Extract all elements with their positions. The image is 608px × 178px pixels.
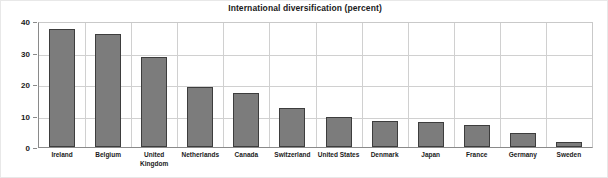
- bar-series: [39, 23, 592, 147]
- y-tick-label: 40: [21, 18, 30, 27]
- y-tick-label: 20: [21, 81, 30, 90]
- bar-slot: [500, 23, 546, 147]
- y-tick-label: 10: [21, 112, 30, 121]
- bar[interactable]: [510, 133, 536, 147]
- x-tick-label: United States: [315, 150, 361, 168]
- bar-slot: [39, 23, 85, 147]
- x-tick-label: Netherlands: [177, 150, 223, 168]
- y-tick-label: 0: [26, 144, 30, 153]
- chart-page: International diversification (percent) …: [0, 0, 608, 178]
- y-tick-mark: [33, 148, 37, 149]
- bar-slot: [269, 23, 315, 147]
- bar-slot: [454, 23, 500, 147]
- bar[interactable]: [464, 125, 490, 147]
- x-tick-label: Canada: [223, 150, 269, 168]
- x-tick-label: Denmark: [362, 150, 408, 168]
- bar[interactable]: [418, 122, 444, 147]
- x-tick-label: Germany: [500, 150, 546, 168]
- bar[interactable]: [372, 121, 398, 147]
- x-tick-label: UnitedKingdom: [131, 150, 177, 168]
- x-tick-label: Belgium: [85, 150, 131, 168]
- bar-slot: [223, 23, 269, 147]
- y-tick-mark: [33, 54, 37, 55]
- y-tick-mark: [33, 117, 37, 118]
- x-tick-label: Sweden: [546, 150, 592, 168]
- bar[interactable]: [95, 34, 121, 147]
- bar[interactable]: [326, 117, 352, 147]
- bar[interactable]: [233, 93, 259, 147]
- bar-slot: [85, 23, 131, 147]
- bar-slot: [362, 23, 408, 147]
- y-tick-label: 30: [21, 49, 30, 58]
- x-tick-label: France: [454, 150, 500, 168]
- bar-slot: [315, 23, 361, 147]
- y-tick-mark: [33, 85, 37, 86]
- bar[interactable]: [556, 142, 582, 147]
- bar[interactable]: [49, 29, 75, 147]
- bar[interactable]: [187, 87, 213, 147]
- x-tick-label: Switzerland: [269, 150, 315, 168]
- x-tick-label: Japan: [408, 150, 454, 168]
- bar[interactable]: [279, 108, 305, 147]
- x-tick-label: Ireland: [39, 150, 85, 168]
- y-tick-mark: [33, 22, 37, 23]
- x-axis-labels: IrelandBelgiumUnitedKingdomNetherlandsCa…: [39, 150, 592, 168]
- bar[interactable]: [141, 57, 167, 147]
- chart-title: International diversification (percent): [1, 3, 608, 13]
- bar-slot: [131, 23, 177, 147]
- plot-area: [38, 22, 593, 148]
- y-axis: 010203040: [1, 22, 37, 148]
- bar-slot: [546, 23, 592, 147]
- bar-slot: [177, 23, 223, 147]
- bar-slot: [408, 23, 454, 147]
